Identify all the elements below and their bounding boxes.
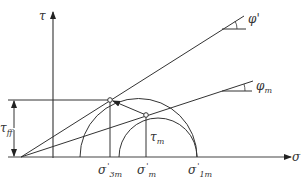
mobilized-point [144,113,149,118]
failure-envelope-line [21,16,244,157]
phi-prime-arc [235,21,237,29]
failure-point [108,98,113,103]
mohr-circle-failure [80,99,197,157]
tau-ff-label: τff [0,122,12,137]
phi-prime-label: φ' [248,13,260,25]
tau-axis-label: τ [39,10,46,22]
tau-m-label: τm [150,131,164,146]
mobilized-envelope-line [21,81,253,157]
sigma-3m-label: σ'3m [98,162,122,179]
phi-m-label: φm [256,80,272,95]
sigma-axis-label: σ' [292,151,301,163]
sigma-m-label: σ'm [137,162,156,179]
stress-path-arrow [113,101,146,115]
phi-m-arc [244,84,245,91]
sigma-1m-label: σ'1m [188,162,212,179]
